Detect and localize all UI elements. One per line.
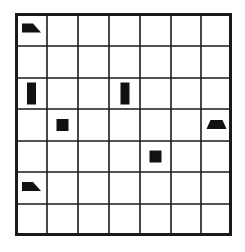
grid-board — [15, 13, 232, 236]
vertical-bar-shape — [27, 83, 36, 105]
square-shape — [150, 151, 162, 163]
grid-svg — [15, 13, 232, 236]
square-shape — [57, 119, 69, 131]
vertical-bar-shape — [121, 83, 130, 105]
